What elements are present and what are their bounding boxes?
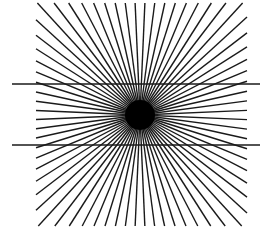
center-disk — [125, 100, 155, 130]
ray-line — [36, 115, 140, 169]
ray-line — [140, 3, 198, 115]
ray-line — [140, 115, 198, 226]
ray-line — [140, 59, 247, 115]
ray-line — [36, 61, 140, 115]
ray-line — [82, 3, 140, 115]
ray-line — [82, 115, 140, 226]
hering-illusion-figure — [0, 0, 260, 234]
ray-line — [140, 115, 247, 171]
